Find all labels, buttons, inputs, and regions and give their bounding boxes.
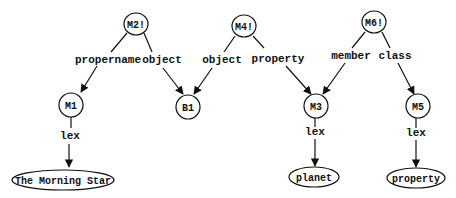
edge-label-propername: propername xyxy=(75,54,141,66)
edge-m1-lex: lex xyxy=(60,117,80,167)
node-m1: M1 xyxy=(59,93,83,117)
edge-m4-m3: property xyxy=(252,36,311,94)
svg-text:M1: M1 xyxy=(65,101,77,112)
edge-m5-lex: lex xyxy=(406,118,426,167)
node-m4: M4! xyxy=(232,15,256,37)
edge-label-lex: lex xyxy=(305,126,325,138)
edge-m6-m3: member xyxy=(323,32,371,94)
svg-text:M6!: M6! xyxy=(365,18,383,29)
edge-label-object: object xyxy=(142,54,182,66)
node-the-morning-star: The Morning Star xyxy=(12,170,114,190)
svg-text:planet: planet xyxy=(296,173,332,184)
svg-text:property: property xyxy=(392,174,440,185)
edge-m2-m1: propername xyxy=(75,33,141,92)
svg-text:B1: B1 xyxy=(182,103,194,114)
node-m5: M5 xyxy=(406,94,430,118)
edge-label-property: property xyxy=(252,53,305,65)
edge-label-lex: lex xyxy=(60,130,80,142)
edge-label-object: object xyxy=(202,54,242,66)
edge-m6-m5: class xyxy=(378,32,414,94)
node-m6: M6! xyxy=(362,11,386,33)
node-m3: M3 xyxy=(304,94,328,118)
edge-label-class: class xyxy=(378,50,411,62)
svg-text:M3: M3 xyxy=(310,102,322,113)
semantic-network-diagram: propername object object property member… xyxy=(0,0,456,198)
node-m2: M2! xyxy=(124,13,148,35)
edge-m2-b1: object xyxy=(142,33,183,94)
node-planet: planet xyxy=(289,167,339,187)
edge-m4-b1: object xyxy=(194,36,242,94)
edge-m3-lex: lex xyxy=(305,118,325,166)
edge-label-member: member xyxy=(331,50,371,62)
svg-text:M2!: M2! xyxy=(127,20,145,31)
node-property: property xyxy=(387,168,445,188)
svg-text:M5: M5 xyxy=(412,102,424,113)
node-b1: B1 xyxy=(176,95,200,119)
svg-text:M4!: M4! xyxy=(235,22,253,33)
svg-text:The Morning Star: The Morning Star xyxy=(15,176,111,187)
edge-label-lex: lex xyxy=(406,127,426,139)
